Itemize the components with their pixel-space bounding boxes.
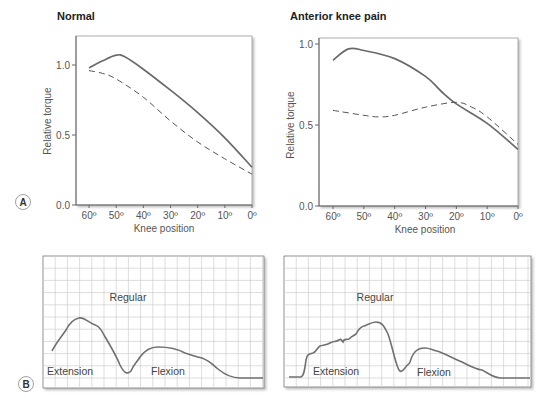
x-tick-label: 10º (217, 210, 232, 221)
x-tick-label: 50º (109, 210, 124, 221)
x-tick-label: 10º (480, 211, 495, 222)
svg-text:B: B (22, 379, 29, 390)
annotation-flexion: Flexion (151, 365, 185, 377)
x-tick-label: 20º (449, 211, 464, 222)
x-tick-label: 40º (136, 210, 151, 221)
panel-label-a: A (16, 195, 31, 210)
y-tick-label: 0.0 (56, 200, 70, 211)
x-axis-label: Knee position (395, 224, 456, 235)
x-tick-label: 30º (163, 210, 178, 221)
annotation-regular: Regular (110, 291, 147, 303)
y-tick-label: 0.5 (299, 120, 313, 131)
y-tick-label: 1.0 (56, 60, 70, 71)
annotation-regular: Regular (357, 291, 394, 303)
figure: Normal 0.00.51.0 60º50º40º30º20º10º0º Kn… (0, 0, 540, 398)
x-tick-label: 0º (247, 210, 257, 221)
y-ticks: 0.00.51.0 (299, 39, 319, 212)
x-axis-label: Knee position (134, 223, 195, 234)
y-tick-label: 0.0 (299, 201, 313, 212)
trace-anterior-knee-pain: Regular Extension Flexion (284, 256, 531, 387)
y-ticks: 0.00.51.0 (56, 60, 76, 211)
chart-anterior-knee-pain: Anterior knee pain 0.00.51.0 60º50º40º30… (285, 10, 523, 235)
svg-text:A: A (19, 197, 26, 208)
y-axis-label: Relative torque (285, 91, 296, 159)
x-tick-label: 50º (356, 211, 371, 222)
annotation-flexion: Flexion (417, 366, 451, 378)
x-ticks: 60º50º40º30º20º10º0º (326, 206, 523, 222)
trace-normal: Regular Extension Flexion (43, 256, 264, 388)
chart-title: Anterior knee pain (290, 10, 387, 22)
x-tick-label: 40º (387, 211, 402, 222)
chart-normal: Normal 0.00.51.0 60º50º40º30º20º10º0º Kn… (42, 10, 257, 234)
y-tick-label: 1.0 (299, 39, 313, 50)
x-tick-label: 20º (190, 210, 205, 221)
y-tick-label: 0.5 (56, 130, 70, 141)
x-tick-label: 0º (513, 211, 523, 222)
y-axis-label: Relative torque (42, 87, 53, 155)
chart-title: Normal (57, 10, 95, 22)
x-tick-label: 30º (418, 211, 433, 222)
x-tick-label: 60º (82, 210, 97, 221)
x-ticks: 60º50º40º30º20º10º0º (82, 205, 257, 221)
annotation-extension: Extension (47, 365, 93, 377)
annotation-extension: Extension (313, 365, 359, 377)
x-tick-label: 60º (326, 211, 341, 222)
plot-frame (319, 38, 518, 206)
panel-label-b: B (19, 377, 34, 392)
